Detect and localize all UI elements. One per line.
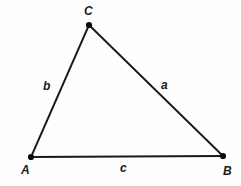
side-a-line [89,25,223,156]
vertex-dot-c [86,22,92,28]
side-label-b: b [43,80,50,92]
side-b-line [31,25,89,157]
vertex-label-a: A [21,164,30,176]
vertex-dot-b [220,153,226,159]
side-label-a: a [161,79,168,91]
vertex-label-c: C [84,5,93,17]
triangle-diagram: A B C a b c [0,0,241,186]
side-c-line [31,156,223,157]
side-label-c: c [120,162,127,174]
triangle-figure [0,0,241,186]
vertex-label-b: B [223,165,232,177]
vertex-dot-a [28,154,34,160]
